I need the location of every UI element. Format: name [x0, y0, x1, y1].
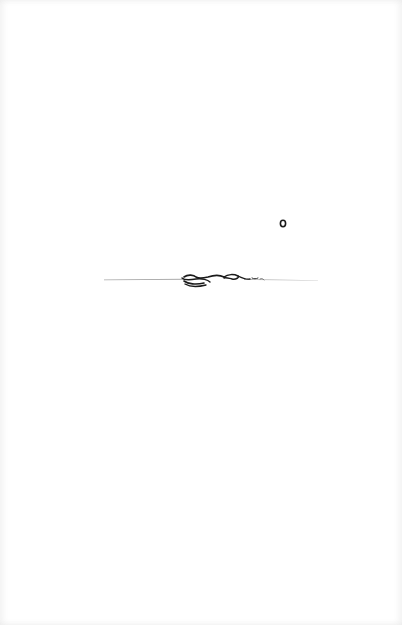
ring-ornament-icon [279, 219, 287, 228]
blank-page [0, 0, 402, 625]
scrollwork-divider-icon [104, 268, 318, 292]
